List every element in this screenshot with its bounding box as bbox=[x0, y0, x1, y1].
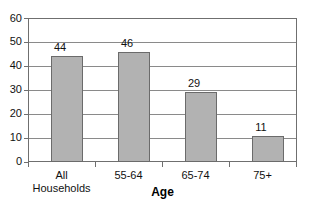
bar-value-55-64: 46 bbox=[107, 38, 147, 49]
x-tick-mark-0 bbox=[28, 162, 29, 167]
bar-value-75-plus: 11 bbox=[241, 122, 281, 133]
x-axis-title: Age bbox=[28, 186, 297, 199]
y-tick-label-40: 40 bbox=[0, 60, 22, 71]
y-tick-label-10: 10 bbox=[0, 132, 22, 143]
x-tick-mark-3 bbox=[229, 162, 230, 167]
y-tick-label-50: 50 bbox=[0, 36, 22, 47]
x-cat-label-65-74: 65-74 bbox=[162, 169, 229, 182]
x-cat-label-55-64: 55-64 bbox=[95, 169, 162, 182]
x-tick-mark-4 bbox=[296, 162, 297, 167]
bar-65-74[interactable] bbox=[185, 92, 217, 162]
x-cat-label-line-1: All bbox=[28, 169, 95, 182]
bar-75-plus[interactable] bbox=[252, 136, 284, 162]
bar-all-households[interactable] bbox=[51, 56, 83, 162]
bar-chart: 60 50 40 30 20 10 0 44 46 29 11 bbox=[0, 0, 310, 208]
x-cat-label-75-plus: 75+ bbox=[229, 169, 296, 182]
y-tick-label-60: 60 bbox=[0, 13, 22, 24]
bar-value-all-households: 44 bbox=[40, 42, 80, 53]
bar-55-64[interactable] bbox=[118, 52, 150, 162]
bar-value-65-74: 29 bbox=[174, 78, 214, 89]
y-tick-label-30: 30 bbox=[0, 84, 22, 95]
y-tick-label-20: 20 bbox=[0, 108, 22, 119]
plot-area bbox=[28, 18, 297, 162]
y-tick-label-0: 0 bbox=[0, 156, 22, 167]
x-tick-mark-2 bbox=[162, 162, 163, 167]
x-tick-mark-1 bbox=[95, 162, 96, 167]
